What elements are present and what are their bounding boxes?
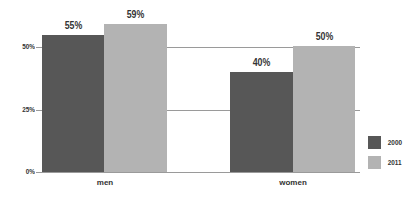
legend-swatch-2011 bbox=[368, 156, 381, 169]
value-label-men-2000: 55% bbox=[48, 19, 98, 31]
value-label-women-2011: 50% bbox=[299, 30, 349, 42]
value-label-women-2000: 40% bbox=[236, 56, 286, 68]
bar-chart: 50% 25% 0% 55% 59% 40% 50% men women 200… bbox=[0, 0, 416, 199]
y-axis-label-50: 50% bbox=[7, 42, 35, 51]
bar-men-2000 bbox=[42, 35, 104, 172]
y-axis-label-0: 0% bbox=[7, 167, 35, 176]
legend-label-2011: 2011 bbox=[388, 158, 402, 167]
legend-label-2000: 2000 bbox=[388, 138, 402, 147]
legend-swatch-2000 bbox=[368, 136, 381, 149]
bar-women-2011 bbox=[293, 46, 355, 172]
bar-women-2000 bbox=[230, 72, 293, 172]
x-axis-label-men: men bbox=[42, 178, 168, 187]
y-tick-0 bbox=[36, 172, 42, 173]
y-axis-label-25: 25% bbox=[7, 105, 35, 114]
x-axis-label-women: women bbox=[230, 178, 356, 187]
gridline-0 bbox=[42, 172, 360, 173]
legend-item-2000: 2000 bbox=[368, 136, 404, 149]
value-label-men-2011: 59% bbox=[110, 8, 160, 20]
legend-item-2011: 2011 bbox=[368, 156, 403, 169]
bar-men-2011 bbox=[104, 24, 167, 172]
